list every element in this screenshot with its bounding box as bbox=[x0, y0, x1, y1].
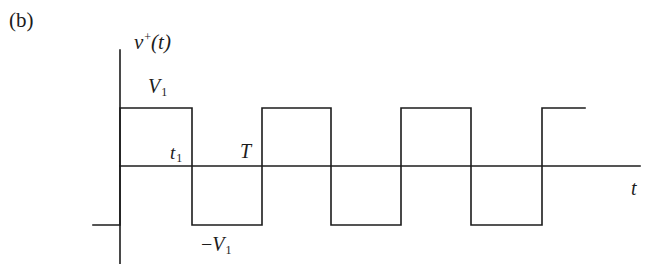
y-axis-label: v+(t) bbox=[134, 31, 171, 53]
y-axis-label-base: v bbox=[134, 30, 143, 54]
square-wave-plot bbox=[0, 0, 645, 264]
panel-label: (b) bbox=[9, 10, 34, 31]
low-level-label-subscript: 1 bbox=[226, 243, 232, 257]
period-label: T bbox=[240, 141, 251, 161]
low-level-label: −V1 bbox=[201, 234, 232, 256]
high-level-label: V1 bbox=[148, 76, 167, 98]
x-axis-label: t bbox=[631, 178, 637, 198]
t1-label: t1 bbox=[170, 143, 182, 164]
y-axis-label-suffix: (t) bbox=[151, 30, 171, 54]
high-level-label-subscript: 1 bbox=[161, 85, 167, 99]
t1-label-base: t bbox=[170, 142, 175, 163]
low-level-label-minus: − bbox=[201, 233, 212, 255]
high-level-label-base: V bbox=[148, 75, 160, 97]
square-wave-figure: (b) v+(t) V1 t1 T −V1 t bbox=[0, 0, 645, 264]
low-level-label-base: V bbox=[212, 233, 224, 255]
t1-label-subscript: 1 bbox=[176, 151, 182, 165]
